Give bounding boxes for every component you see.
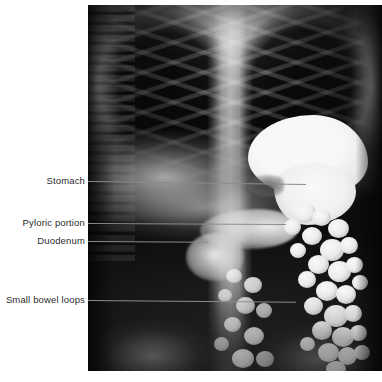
label-small-bowel-loops: Small bowel loops <box>6 294 85 305</box>
radiograph-image <box>88 5 382 371</box>
label-duodenum: Duodenum <box>37 235 85 246</box>
film-grain <box>88 5 382 371</box>
label-pyloric-portion: Pyloric portion <box>23 217 85 228</box>
label-stomach: Stomach <box>46 175 85 186</box>
annotated-radiograph-figure: Stomach Pyloric portion Duodenum Small b… <box>0 0 382 382</box>
